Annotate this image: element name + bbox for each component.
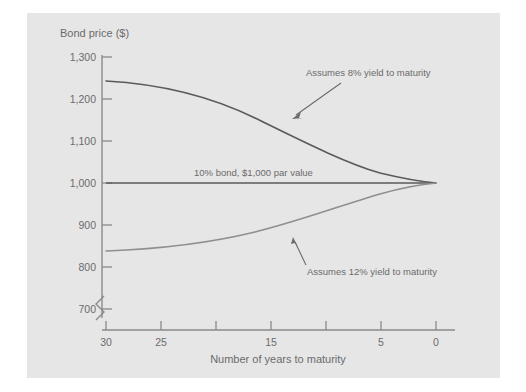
annotation-8-percent-arrow-head — [292, 112, 303, 119]
x-tick-label-5: 5 — [378, 336, 384, 348]
y-axis-title: Bond price ($) — [60, 27, 129, 39]
annotation-12-percent-label: Assumes 12% yield to maturity — [307, 266, 437, 277]
x-tick-label-15: 15 — [265, 336, 277, 348]
annotation-par-value-label: 10% bond, $1,000 par value — [194, 167, 313, 178]
y-tick-label-800: 800 — [78, 261, 96, 273]
annotation-12-percent: Assumes 12% yield to maturity — [291, 237, 437, 277]
y-tick-label-1200: 1,200 — [70, 93, 96, 105]
x-axis-ticks — [106, 321, 436, 330]
y-axis-break-icon — [96, 296, 104, 320]
figure-container: 1,300 1,200 1,100 1,000 900 800 700 30 2… — [0, 0, 526, 392]
y-tick-label-1300: 1,300 — [70, 51, 96, 63]
y-tick-label-1100: 1,100 — [70, 135, 96, 147]
curve-12-percent-yield — [106, 183, 436, 251]
y-tick-label-900: 900 — [78, 219, 96, 231]
bond-price-chart: 1,300 1,200 1,100 1,000 900 800 700 30 2… — [0, 0, 526, 392]
annotation-8-percent: Assumes 8% yield to maturity — [292, 67, 431, 119]
x-tick-label-0: 0 — [433, 336, 439, 348]
annotation-8-percent-arrow-line — [296, 83, 341, 115]
y-tick-label-700: 700 — [78, 303, 96, 315]
annotation-12-percent-arrow-line — [295, 242, 306, 265]
annotation-12-percent-arrow-head — [291, 237, 298, 247]
x-tick-label-25: 25 — [155, 336, 167, 348]
x-axis-title: Number of years to maturity — [210, 353, 346, 365]
annotation-8-percent-label: Assumes 8% yield to maturity — [306, 67, 431, 78]
y-tick-label-1000: 1,000 — [70, 177, 96, 189]
x-tick-label-30: 30 — [100, 336, 112, 348]
